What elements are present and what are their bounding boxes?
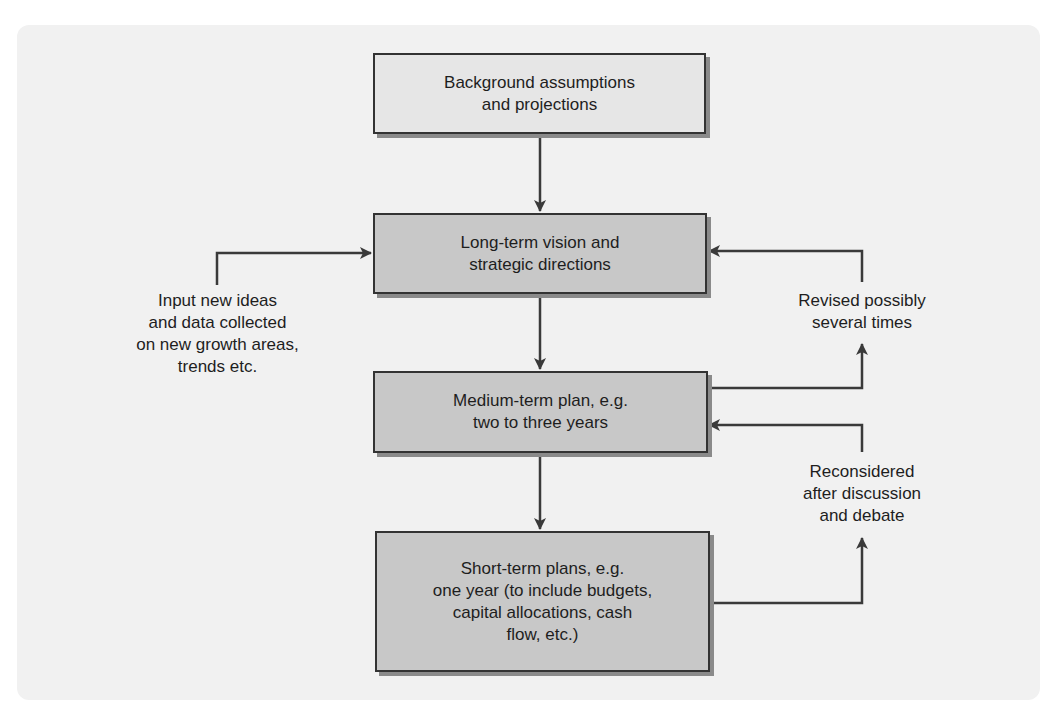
box-long-term-vision: Long-term vision and strategic direction…: [373, 213, 707, 294]
annotation-reconsidered: Reconsidered after discussion and debate: [772, 461, 952, 527]
box-long-term-text: Long-term vision and strategic direction…: [461, 232, 620, 276]
box-short-term-text: Short-term plans, e.g. one year (to incl…: [433, 558, 652, 646]
box-background-text: Background assumptions and projections: [444, 72, 635, 116]
box-medium-term-text: Medium-term plan, e.g. two to three year…: [453, 390, 628, 434]
box-medium-term-plan: Medium-term plan, e.g. two to three year…: [373, 371, 708, 453]
annotation-revised: Revised possibly several times: [772, 290, 952, 334]
box-background-assumptions: Background assumptions and projections: [373, 53, 706, 134]
box-short-term-plans: Short-term plans, e.g. one year (to incl…: [375, 531, 710, 672]
annotation-input-ideas: Input new ideas and data collected on ne…: [110, 290, 325, 378]
